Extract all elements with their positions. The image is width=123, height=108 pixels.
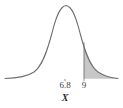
shaded-tail-region xyxy=(5,6,118,79)
tick-label-cutoff: 9 xyxy=(76,80,92,90)
x-axis-title: X xyxy=(53,92,77,103)
normal-distribution-figure: 6.8 9 X xyxy=(0,0,123,108)
bell-curve xyxy=(5,6,118,79)
tick-label-mean: 6.8 xyxy=(53,80,77,90)
